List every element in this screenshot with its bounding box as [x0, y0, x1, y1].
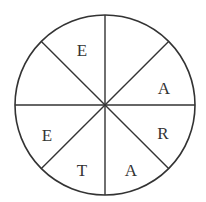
spinner-diagram: E A R A T E [0, 0, 206, 202]
section-letter-a-upper-right: A [158, 79, 171, 98]
section-letter-r: R [157, 124, 169, 143]
section-letter-t: T [77, 161, 88, 180]
section-letter-a-bottom: A [125, 161, 138, 180]
section-letter-e-top: E [77, 41, 87, 60]
section-letter-e-left: E [42, 126, 52, 145]
